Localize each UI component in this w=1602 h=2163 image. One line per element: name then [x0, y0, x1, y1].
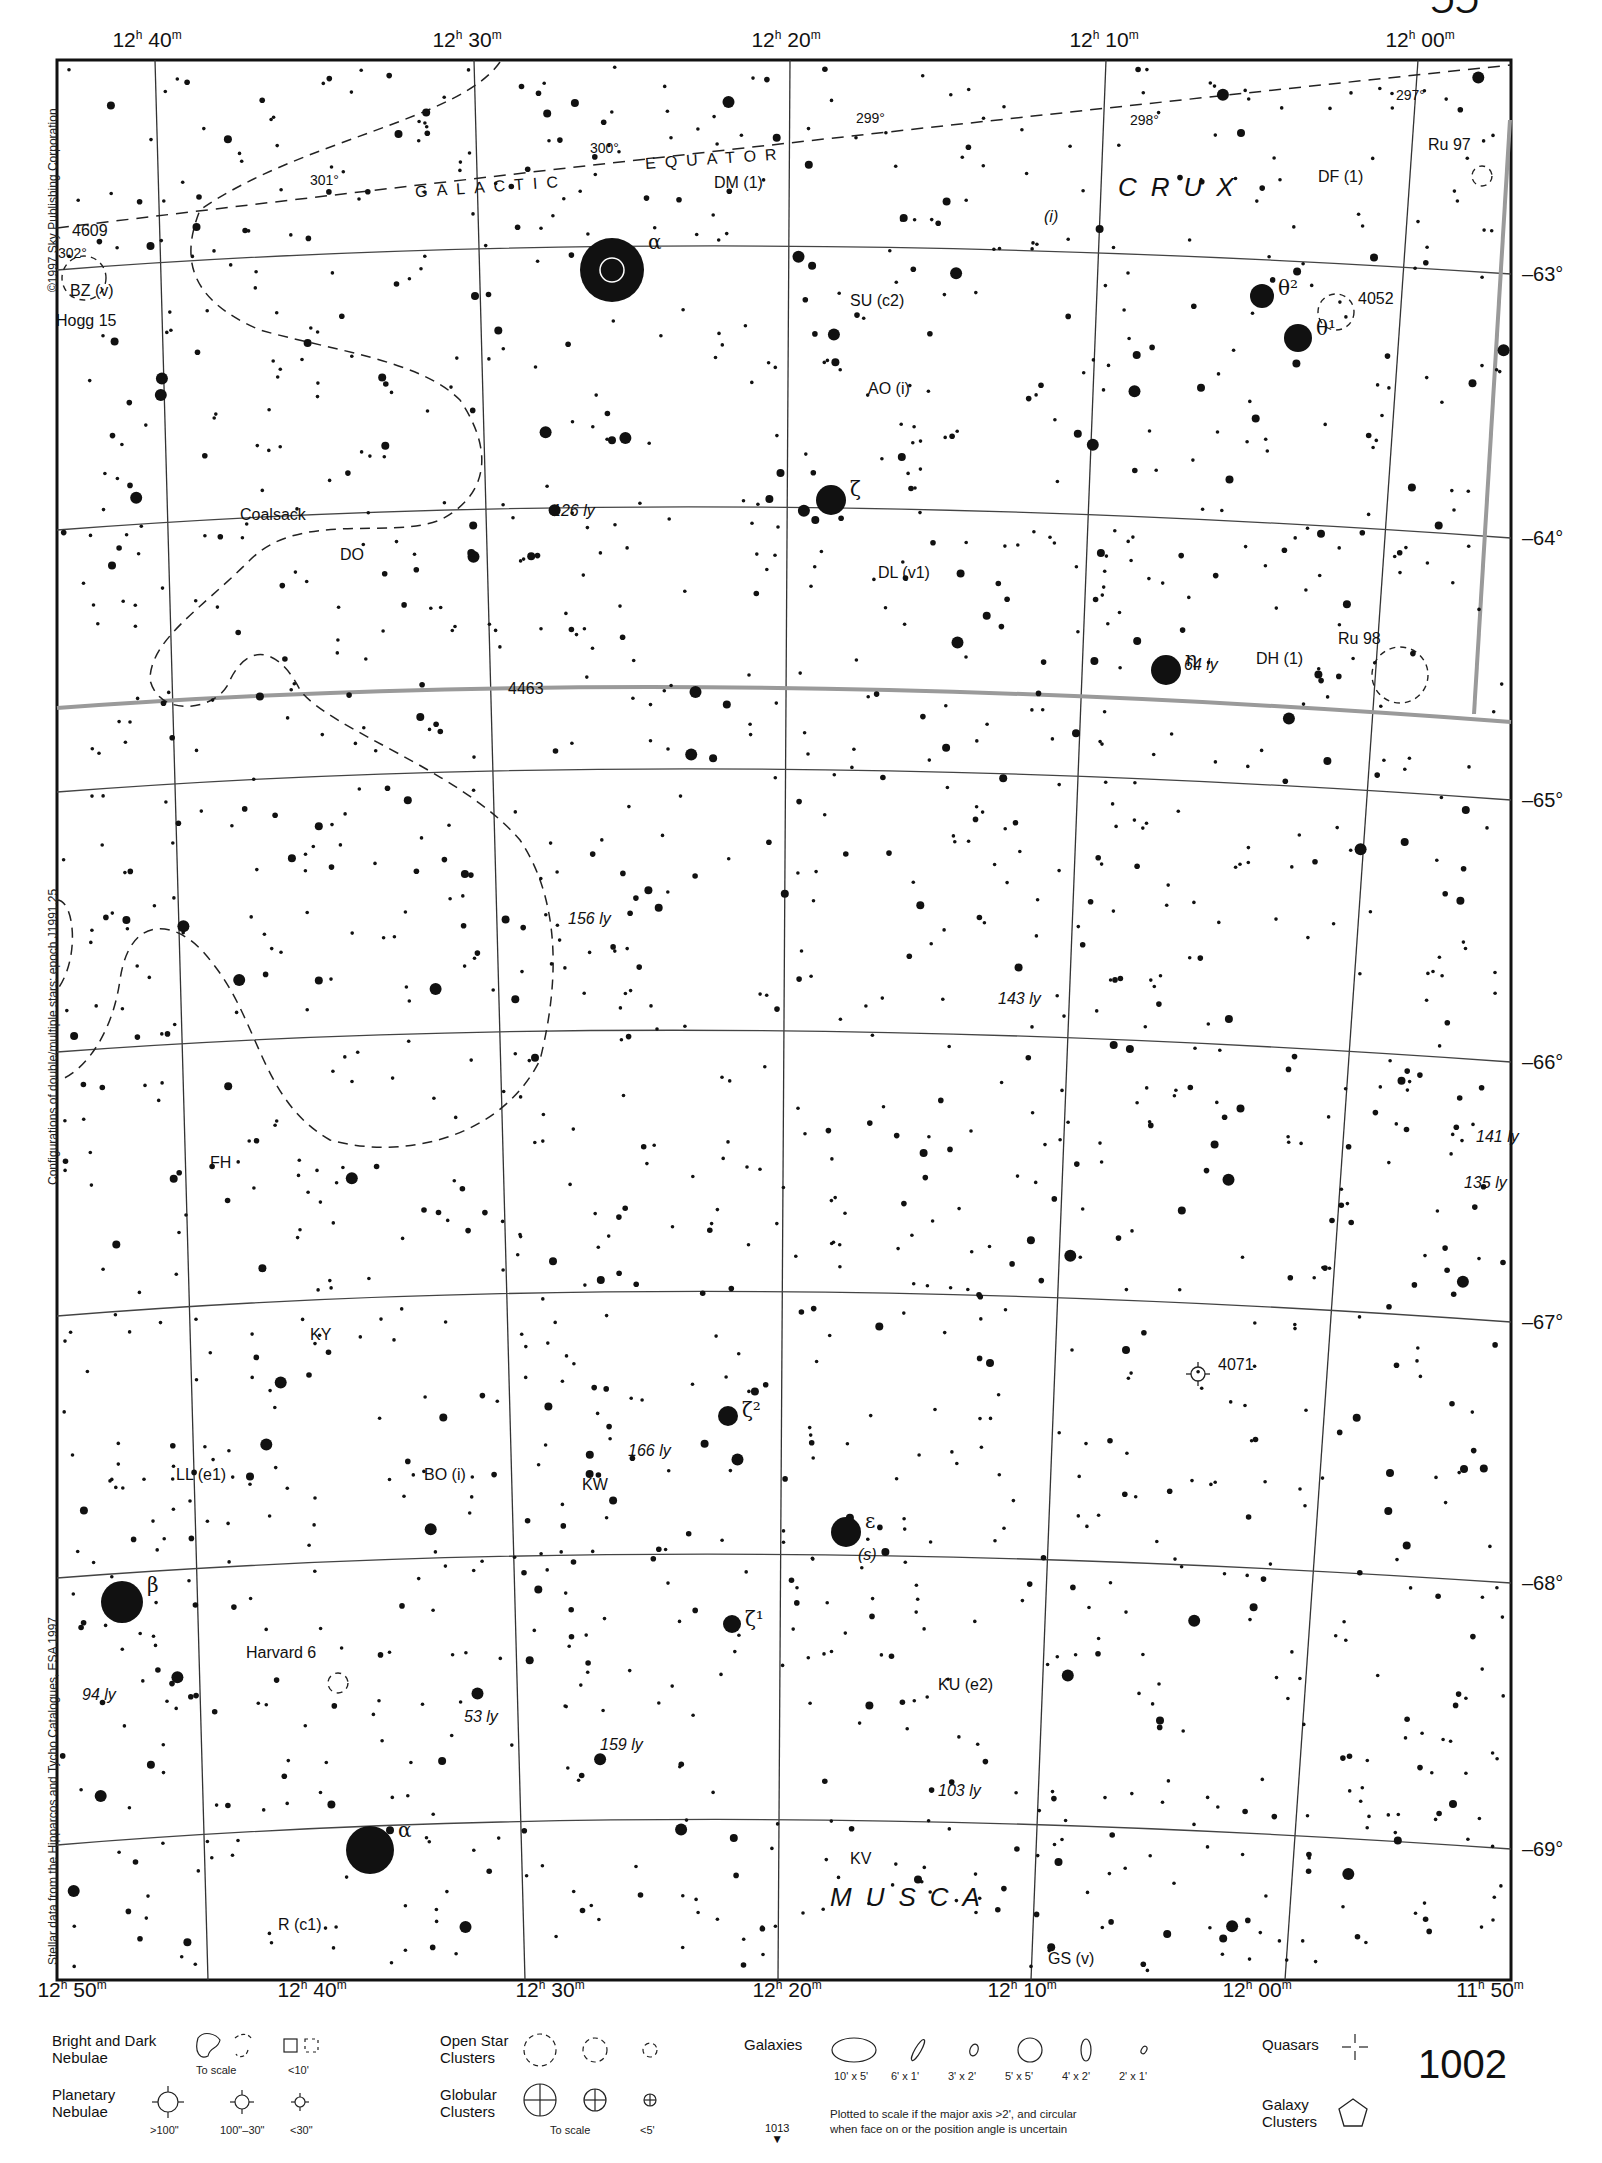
- legend-quasars-title: Quasars: [1262, 2036, 1319, 2053]
- legend-globular-title: Globular Clusters: [440, 2086, 497, 2120]
- object-label: DO: [340, 546, 364, 564]
- legend-open-clusters-title: Open Star Clusters: [440, 2032, 508, 2066]
- planetary-size-label: 100"–30": [220, 2124, 265, 2136]
- ra-label: 12h 40m: [112, 28, 181, 52]
- nebula-symbols: [190, 2030, 330, 2064]
- greek-letter-label: β: [147, 1573, 159, 1597]
- galactic-longitude-label: 298°: [1130, 112, 1159, 128]
- globular-symbols: [520, 2078, 670, 2122]
- bright-star: [1250, 284, 1274, 308]
- starfield: [60, 66, 1510, 1973]
- object-label: 159 ly: [600, 1736, 643, 1754]
- ra-label: 12h 30m: [432, 28, 501, 52]
- greek-letter-label: θ¹: [1316, 316, 1336, 340]
- galaxy-size-label: 6' x 1': [891, 2070, 919, 2082]
- ra-label: 11h 50m: [1456, 1978, 1524, 2002]
- object-label: FH: [210, 1154, 231, 1172]
- object-label: (s): [858, 1546, 877, 1564]
- greek-letter-label: η: [1185, 647, 1197, 671]
- greek-letter-label: θ²: [1278, 276, 1298, 300]
- bright-star: [346, 1826, 394, 1874]
- object-label: 4052: [1358, 290, 1394, 308]
- object-label: LL (e1): [176, 1466, 226, 1484]
- ra-label: 12h 30m: [515, 1978, 584, 2002]
- object-label: 143 ly: [998, 990, 1041, 1008]
- object-label: DH (1): [1256, 650, 1303, 668]
- page-number: 1002: [1418, 2042, 1507, 2087]
- greek-letter-label: ζ¹: [745, 1607, 764, 1631]
- object-label: DL (v1): [878, 564, 930, 582]
- object-label: Hogg 15: [56, 312, 117, 330]
- galactic-longitude-label: 300°: [590, 140, 619, 156]
- object-label: DM (1): [714, 174, 763, 192]
- bright-star: [1284, 324, 1312, 352]
- ra-label: 12h 10m: [987, 1978, 1056, 2002]
- greek-letter-label: ε: [865, 1509, 875, 1533]
- top-page-number-fragment: ƆƆ: [1430, 0, 1479, 21]
- open-cluster-symbols: [520, 2030, 670, 2070]
- galaxy-size-label: 3' x 2': [948, 2070, 976, 2082]
- bright-star: [718, 1406, 738, 1426]
- legend-planetary-title: Planetary Nebulae: [52, 2086, 115, 2120]
- bright-star: [816, 485, 846, 515]
- legend-galaxies-title: Galaxies: [744, 2036, 802, 2053]
- star-chart: [0, 0, 1602, 2163]
- ra-label: 12h 50m: [37, 1978, 106, 2002]
- dec-label: –67°: [1522, 1311, 1563, 1334]
- object-label: 135 ly: [1464, 1174, 1507, 1192]
- object-label: 94 ly: [82, 1686, 116, 1704]
- ra-label: 12h 00m: [1222, 1978, 1291, 2002]
- ra-label: 12h 10m: [1069, 28, 1138, 52]
- globular-small: <5': [640, 2124, 655, 2136]
- open-cluster-markers: [62, 166, 1492, 1693]
- galactic-longitude-label: 299°: [856, 110, 885, 126]
- object-label: 141 ly: [1476, 1128, 1519, 1146]
- object-label: GS (v): [1048, 1950, 1094, 1968]
- object-label: Ru 97: [1428, 136, 1471, 154]
- legend-galaxy-clusters-title: Galaxy Clusters: [1262, 2096, 1317, 2130]
- greek-letter-label: α: [398, 1818, 412, 1842]
- galaxy-cluster-pentagon-icon: [1336, 2096, 1370, 2130]
- dec-label: –68°: [1522, 1572, 1563, 1595]
- next-page-link[interactable]: 1013 ▼: [765, 2122, 789, 2144]
- copyright-credit: ©1997 Sky Publishing Corporation: [46, 108, 60, 292]
- constellation-name: CRUX: [1118, 172, 1248, 203]
- galaxy-size-label: 10' x 5': [834, 2070, 868, 2082]
- greek-letter-label: ζ²: [742, 1398, 761, 1422]
- bright-star: [580, 238, 644, 302]
- object-label: 4071: [1218, 1356, 1254, 1374]
- object-label: Coalsack: [240, 506, 306, 524]
- object-label: 126 ly: [552, 502, 595, 520]
- greek-letter-label: α: [648, 230, 662, 254]
- ra-label: 12h 40m: [277, 1978, 346, 2002]
- object-label: KV: [850, 1850, 871, 1868]
- object-label: 166 ly: [628, 1442, 671, 1460]
- planetary-size-label: >100": [150, 2124, 179, 2136]
- object-label: DF (1): [1318, 168, 1363, 186]
- galaxy-size-label: 5' x 5': [1005, 2070, 1033, 2082]
- dec-label: –63°: [1522, 263, 1563, 286]
- planetary-symbols: [150, 2082, 330, 2122]
- object-label: Harvard 6: [246, 1644, 316, 1662]
- planetary-size-label: <30": [290, 2124, 313, 2136]
- object-label: 53 ly: [464, 1708, 498, 1726]
- planetary-nebula-4071-icon: [1186, 1362, 1210, 1386]
- object-label: Ru 98: [1338, 630, 1381, 648]
- ra-label: 12h 20m: [751, 28, 820, 52]
- greek-letter-label: ζ: [850, 477, 861, 501]
- object-label: BO (i): [424, 1466, 466, 1484]
- object-label: SU (c2): [850, 292, 904, 310]
- object-label: 103 ly: [938, 1782, 981, 1800]
- dec-label: –65°: [1522, 789, 1563, 812]
- globular-to-scale: To scale: [550, 2124, 590, 2136]
- object-label: KY: [310, 1326, 331, 1344]
- galactic-longitude-label: 301°: [310, 172, 339, 188]
- epoch-note: Configurations of double/multiple stars:…: [46, 889, 60, 1185]
- bright-star: [1151, 655, 1181, 685]
- galactic-longitude-label: 302°: [58, 245, 87, 261]
- object-label: R (c1): [278, 1916, 322, 1934]
- galaxy-note-line1: Plotted to scale if the major axis >2', …: [830, 2108, 1077, 2120]
- object-label: 156 ly: [568, 910, 611, 928]
- object-label: KW: [582, 1476, 608, 1494]
- galaxy-size-label: 4' x 2': [1062, 2070, 1090, 2082]
